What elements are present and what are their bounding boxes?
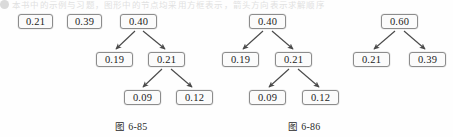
tree-node-f3-n1: 0.60 (381, 14, 418, 29)
arrow-f1-n5-to-f1-n7 (171, 69, 192, 87)
figure-caption-6-85: 图 6-85 (115, 119, 148, 133)
arrow-f3-n1-to-f3-n3 (404, 31, 425, 49)
arrow-f1-n3-to-f1-n5 (143, 31, 165, 49)
cropped-text-strip: 本书中的示例与习题，图形中的节点均采用方框表示，箭头方向表示求解顺序 (0, 0, 453, 11)
tree-node-f2-n5: 0.12 (302, 90, 339, 105)
tree-node-f1-n3: 0.40 (120, 14, 157, 29)
caption-label-1: 图 (115, 121, 125, 132)
caption-number-1: 6-85 (128, 121, 148, 132)
figure-page: 本书中的示例与习题，图形中的节点均采用方框表示，箭头方向表示求解顺序 0.210… (0, 0, 453, 137)
tree-node-f3-n2: 0.21 (353, 52, 390, 67)
arrow-f1-n5-to-f1-n6 (143, 69, 162, 87)
tree-node-f2-n3: 0.21 (275, 52, 312, 67)
arrow-f3-n1-to-f3-n2 (374, 31, 395, 49)
figure-caption-6-86: 图 6-86 (288, 119, 321, 133)
arrow-f2-n1-to-f2-n2 (243, 31, 263, 49)
arrow-f1-n3-to-f1-n4 (116, 31, 135, 49)
tree-node-f1-n2: 0.39 (67, 14, 102, 29)
caption-number-2: 6-86 (301, 121, 321, 132)
tree-node-f1-n1: 0.21 (18, 14, 53, 29)
tree-node-f2-n2: 0.19 (222, 52, 259, 67)
arrow-f2-n3-to-f2-n4 (269, 69, 289, 87)
cropped-text: 本书中的示例与习题，图形中的节点均采用方框表示，箭头方向表示求解顺序 (12, 0, 325, 10)
tree-node-f1-n5: 0.21 (148, 52, 185, 67)
tree-node-f2-n1: 0.40 (249, 14, 286, 29)
tree-node-f2-n4: 0.09 (249, 90, 286, 105)
arrow-f2-n3-to-f2-n5 (298, 69, 319, 87)
bullet-icon (0, 0, 9, 9)
tree-node-f1-n7: 0.12 (176, 90, 213, 105)
tree-node-f3-n3: 0.39 (409, 52, 446, 67)
caption-label-2: 图 (288, 121, 298, 132)
tree-node-f1-n6: 0.09 (124, 90, 161, 105)
tree-node-f1-n4: 0.19 (96, 52, 133, 67)
arrow-f2-n1-to-f2-n3 (272, 31, 293, 49)
